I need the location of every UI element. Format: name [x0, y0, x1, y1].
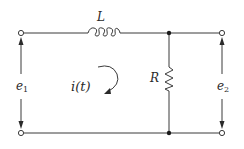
resistor-zigzag	[165, 67, 173, 91]
e1-arrowhead-up-icon	[19, 37, 24, 45]
terminal-output-bottom	[219, 130, 224, 135]
inductor-coil	[88, 28, 120, 36]
e2-label: e2	[217, 80, 229, 94]
junction-dot-bottom	[167, 131, 171, 135]
e2-arrowhead-down-icon	[220, 121, 225, 129]
current-arc	[98, 66, 118, 92]
e1-label: e1	[16, 80, 28, 94]
e1-arrowhead-down-icon	[19, 121, 24, 129]
resistor-label: R	[150, 72, 159, 84]
circuit-diagram	[0, 0, 244, 149]
current-label: i(t)	[71, 80, 91, 93]
e2-arrowhead-up-icon	[220, 37, 225, 45]
junction-dot-top	[167, 31, 171, 35]
current-arrowhead-icon	[104, 88, 111, 94]
terminal-output-top	[219, 30, 224, 35]
terminal-input-top	[18, 30, 23, 35]
inductor-label: L	[97, 11, 105, 23]
terminal-input-bottom	[18, 130, 23, 135]
